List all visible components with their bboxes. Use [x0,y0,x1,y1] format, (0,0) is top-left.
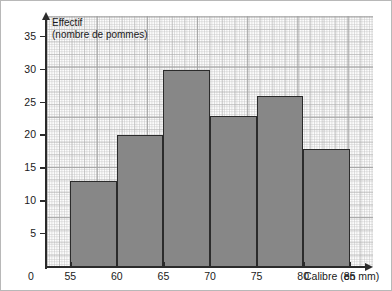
histogram-bar [303,149,350,267]
x-tick-label: 65 [148,271,178,282]
y-tick-mark [40,167,46,168]
x-axis-title: Calibre (en mm) [304,270,379,282]
y-tick-label: 15 [12,162,36,173]
origin-label: 0 [28,270,34,282]
histogram-bar [257,96,304,267]
y-tick-label: 25 [12,97,36,108]
y-tick-label: 20 [12,129,36,140]
histogram-bar [210,116,257,267]
y-axis-line [45,17,47,269]
x-tick-label: 55 [55,271,85,282]
y-tick-mark [40,233,46,234]
y-tick-label: 35 [12,31,36,42]
x-tick-mark [70,262,71,268]
histogram-bar [70,181,117,267]
plot-area [47,16,373,267]
y-axis-title-line1: Effectif [52,17,148,29]
x-tick-mark [163,262,164,268]
y-tick-mark [40,36,46,37]
x-tick-mark [257,262,258,268]
y-axis-title: Effectif (nombre de pommes) [52,17,148,40]
y-tick-label: 10 [12,195,36,206]
histogram-bar [117,135,164,267]
y-tick-mark [40,134,46,135]
y-tick-mark [40,102,46,103]
x-tick-mark [117,262,118,268]
histogram-figure: 5101520253035 55606570758085 0 Effectif … [0,0,392,291]
x-tick-label: 75 [242,271,272,282]
y-tick-mark [40,69,46,70]
x-axis-line [45,266,371,268]
y-tick-mark [40,200,46,201]
y-tick-label: 5 [12,228,36,239]
y-axis-arrow-icon [42,12,50,20]
histogram-bar [163,70,210,267]
y-tick-label: 30 [12,64,36,75]
x-tick-label: 60 [102,271,132,282]
x-tick-mark [350,262,351,268]
x-tick-label: 70 [195,271,225,282]
x-tick-mark [303,262,304,268]
y-axis-title-line2: (nombre de pommes) [52,29,148,41]
x-tick-mark [210,262,211,268]
